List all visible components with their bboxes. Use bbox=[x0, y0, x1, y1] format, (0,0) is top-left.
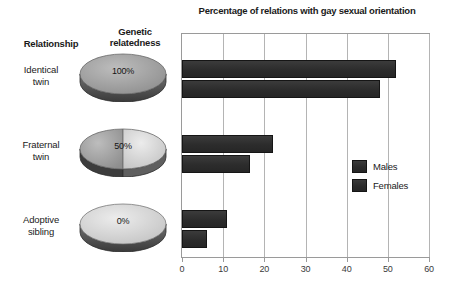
chart-legend: MalesFemales bbox=[352, 160, 428, 198]
figure-root: Relationship Geneticrelatedness Identica… bbox=[0, 0, 452, 289]
x-tickmark-10 bbox=[223, 258, 224, 262]
row-label-adoptive-sibling: Adoptivesibling bbox=[2, 214, 80, 237]
x-tick-label-40: 40 bbox=[342, 264, 352, 274]
legend-label-males: Males bbox=[373, 161, 397, 172]
column-header-relationship: Relationship bbox=[8, 38, 94, 49]
relatedness-disc-adoptive-sibling: 0% bbox=[78, 200, 168, 252]
relatedness-disc-identical-twin: 100% bbox=[78, 50, 168, 102]
legend-item-females: Females bbox=[352, 179, 428, 192]
x-tickmark-60 bbox=[429, 258, 430, 262]
bar-fraternal-twin-females bbox=[182, 155, 250, 173]
x-axis: 0102030405060 bbox=[181, 258, 430, 282]
x-tickmark-30 bbox=[306, 258, 307, 262]
bar-adoptive-sibling-females bbox=[182, 230, 207, 248]
x-tick-label-10: 10 bbox=[218, 264, 228, 274]
x-tickmark-50 bbox=[388, 258, 389, 262]
column-header-genetic-relatedness: Geneticrelatedness bbox=[88, 26, 182, 48]
x-tickmark-0 bbox=[182, 258, 183, 262]
x-tickmark-40 bbox=[347, 258, 348, 262]
legend-label-females: Females bbox=[373, 180, 408, 191]
legend-item-males: Males bbox=[352, 160, 428, 173]
x-tick-label-50: 50 bbox=[383, 264, 393, 274]
x-tickmark-20 bbox=[264, 258, 265, 262]
x-tick-label-60: 60 bbox=[424, 264, 434, 274]
chart-title: Percentage of relations with gay sexual … bbox=[176, 5, 438, 16]
relatedness-disc-fraternal-twin: 50% bbox=[78, 125, 168, 177]
relatedness-value-fraternal-twin: 50% bbox=[78, 141, 168, 151]
relatedness-value-identical-twin: 100% bbox=[78, 66, 168, 76]
legend-swatch-icon-females bbox=[352, 179, 367, 192]
x-tick-label-20: 20 bbox=[260, 264, 270, 274]
row-label-fraternal-twin: Fraternaltwin bbox=[2, 139, 80, 162]
bar-identical-twin-females bbox=[182, 80, 380, 98]
x-tick-label-0: 0 bbox=[180, 264, 185, 274]
bar-identical-twin-males bbox=[182, 60, 396, 78]
legend-swatch-icon-males bbox=[352, 160, 367, 173]
chart-plot-area bbox=[181, 33, 430, 258]
x-tick-label-30: 30 bbox=[301, 264, 311, 274]
bar-adoptive-sibling-males bbox=[182, 210, 227, 228]
row-label-identical-twin: Identicaltwin bbox=[2, 64, 80, 87]
gridline-60 bbox=[429, 34, 430, 257]
relatedness-value-adoptive-sibling: 0% bbox=[78, 216, 168, 226]
bar-fraternal-twin-males bbox=[182, 135, 273, 153]
